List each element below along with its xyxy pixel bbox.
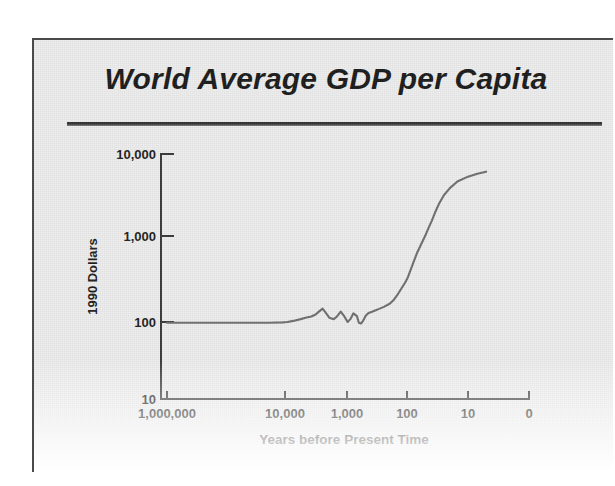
gdp-series-line [167,172,486,324]
x-tick-label-10: 10 [438,406,498,421]
y-axis-title: 1990 Dollars [85,217,100,337]
x-axis-title: Years before Present Time [214,432,474,447]
x-tick-label-100: 100 [372,406,442,421]
y-tick-label-10000: 10,000 [72,147,156,162]
x-tick-label-0: 0 [504,406,554,421]
y-tick-label-10: 10 [72,392,156,407]
chart-axes [160,153,530,400]
slide-canvas: World Average GDP per Capita [32,38,613,472]
chart-plot-area: 10,000 1,000 100 10 1,000,000 10,000 1,0… [34,40,613,472]
x-tick-label-1000000: 1,000,000 [107,406,227,421]
